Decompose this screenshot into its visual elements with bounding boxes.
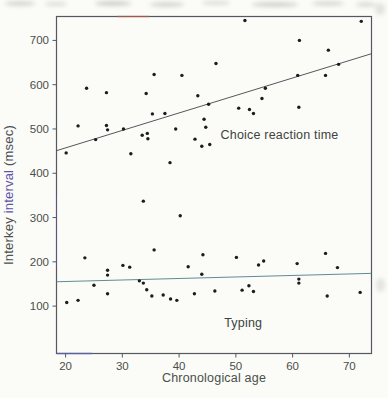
- x-tick-label-20: 20: [59, 360, 72, 372]
- typing-data-point: [186, 265, 189, 268]
- y-axis-label-part: (msec): [1, 125, 16, 170]
- typing-data-point: [240, 288, 243, 291]
- y-tick-label-200: 200: [30, 256, 49, 268]
- x-tick-label-70: 70: [343, 360, 356, 372]
- choice-reaction-time-data-point: [151, 112, 154, 115]
- typing-data-point: [336, 266, 339, 269]
- choice-reaction-time-data-point: [296, 74, 299, 77]
- choice-reaction-time-data-point: [144, 92, 147, 95]
- choice-reaction-time-data-point: [200, 145, 203, 148]
- choice-reaction-time-data-point: [214, 62, 217, 65]
- choice-reaction-time-data-point: [264, 87, 267, 90]
- scanned-figure-page: 203040506070100200300400500600700Chronol…: [0, 0, 388, 398]
- typing-trend-line: [57, 273, 372, 281]
- choice-reaction-time-data-point: [146, 132, 149, 135]
- choice-reaction-time-data-point: [168, 161, 171, 164]
- typing-data-point: [297, 281, 300, 284]
- typing-data-point: [201, 253, 204, 256]
- typing-data-point: [179, 214, 182, 217]
- typing-data-point: [142, 281, 145, 284]
- choice-reaction-time-data-point: [252, 112, 255, 115]
- typing-data-point: [235, 256, 238, 259]
- choice-reaction-time-data-point: [193, 137, 196, 140]
- choice-reaction-time-data-point: [94, 138, 97, 141]
- typing-data-point: [65, 301, 68, 304]
- typing-data-point: [247, 284, 250, 287]
- typing-data-point: [257, 263, 260, 266]
- y-tick-label-600: 600: [30, 79, 49, 91]
- choice-reaction-time-data-point: [243, 19, 246, 22]
- choice-reaction-time-data-point: [106, 128, 109, 131]
- typing-data-point: [175, 299, 178, 302]
- typing-data-point: [169, 297, 172, 300]
- choice-reaction-time-data-point: [324, 74, 327, 77]
- choice-reaction-time-data-point: [196, 94, 199, 97]
- typing-data-point: [83, 256, 86, 259]
- choice-reaction-time-data-point: [105, 91, 108, 94]
- typing-data-point: [193, 292, 196, 295]
- choice-reaction-time-data-point: [327, 48, 330, 51]
- typing-data-point: [138, 279, 141, 282]
- typing-data-point: [152, 248, 155, 251]
- choice-reaction-time-data-point: [202, 118, 205, 121]
- choice-reaction-time-data-point: [76, 124, 79, 127]
- choice-reaction-time-data-point: [248, 108, 251, 111]
- choice-reaction-time-data-point: [174, 127, 177, 130]
- choice-reaction-time-data-point: [64, 151, 67, 154]
- typing-data-point: [106, 273, 109, 276]
- y-tick-label-400: 400: [30, 167, 49, 179]
- choice-reaction-time-data-point: [129, 152, 132, 155]
- y-axis-label-part: interval: [1, 170, 16, 214]
- choice-reaction-time-data-point: [260, 97, 263, 100]
- typing-data-point: [324, 252, 327, 255]
- typing-data-point: [200, 273, 203, 276]
- choice-reaction-time-data-point: [146, 137, 149, 140]
- typing-data-point: [92, 284, 95, 287]
- x-tick-label-50: 50: [229, 360, 242, 372]
- choice-reaction-time-data-point: [204, 126, 207, 129]
- y-axis-label-part: Interkey: [1, 213, 16, 265]
- x-tick-label-60: 60: [286, 360, 299, 372]
- choice-reaction-time-data-point: [207, 102, 210, 105]
- typing-data-point: [121, 264, 124, 267]
- x-axis-label: Chronological age: [162, 371, 266, 385]
- choice-reaction-time-data-point: [237, 106, 240, 109]
- plot-border: [57, 17, 372, 354]
- y-axis-label: Interkey interval (msec): [1, 125, 16, 265]
- y-tick-label-500: 500: [30, 123, 49, 135]
- x-tick-label-30: 30: [116, 360, 129, 372]
- choice-reaction-time-data-point: [360, 20, 363, 23]
- choice-reaction-time-data-point: [122, 127, 125, 130]
- typing-data-point: [252, 290, 255, 293]
- choice-reaction-time-data-point: [298, 39, 301, 42]
- choice-reaction-time-data-point: [85, 87, 88, 90]
- typing-data-point: [106, 269, 109, 272]
- choice-reaction-time-data-point: [141, 133, 144, 136]
- typing-data-point: [142, 199, 145, 202]
- y-tick-label-300: 300: [30, 212, 49, 224]
- y-tick-label-700: 700: [30, 34, 49, 46]
- typing-data-point: [162, 293, 165, 296]
- typing-label: Typing: [224, 316, 262, 330]
- typing-data-point: [76, 299, 79, 302]
- scatter-chart: 203040506070100200300400500600700Chronol…: [0, 0, 388, 398]
- x-tick-label-40: 40: [173, 360, 186, 372]
- typing-data-point: [262, 259, 265, 262]
- typing-data-point: [297, 277, 300, 280]
- typing-data-point: [128, 265, 131, 268]
- typing-data-point: [295, 262, 298, 265]
- choice-reaction-time-data-point: [297, 106, 300, 109]
- y-tick-label-100: 100: [30, 300, 49, 312]
- choice-reaction-time-data-point: [152, 73, 155, 76]
- choice-reaction-time-data-point: [180, 74, 183, 77]
- typing-data-point: [150, 294, 153, 297]
- choice-reaction-time-data-point: [208, 143, 211, 146]
- choice-reaction-time-data-point: [105, 124, 108, 127]
- typing-data-point: [358, 291, 361, 294]
- choice-reaction-time-data-point: [163, 112, 166, 115]
- choice-reaction-time-label: Choice reaction time: [221, 128, 339, 142]
- typing-data-point: [145, 288, 148, 291]
- typing-data-point: [326, 294, 329, 297]
- typing-data-point: [106, 292, 109, 295]
- choice-reaction-time-data-point: [337, 63, 340, 66]
